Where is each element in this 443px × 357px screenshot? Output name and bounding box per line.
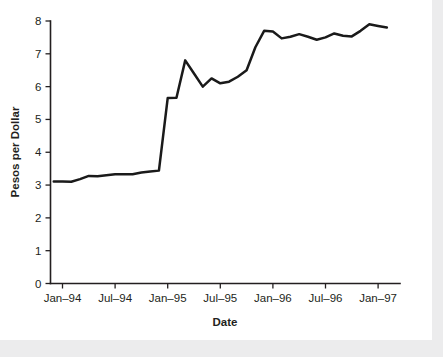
y-axis-title: Pesos per Dollar	[9, 106, 21, 197]
x-tick-label: Jan–95	[149, 292, 187, 304]
y-tick-label: 6	[35, 81, 41, 93]
y-tick-label: 1	[35, 245, 41, 257]
x-tick-label: Jan–94	[44, 292, 82, 304]
y-tick-label: 7	[35, 48, 41, 60]
x-tick-label: Jan–96	[254, 292, 292, 304]
y-axis-tick-labels: 012345678	[35, 15, 42, 290]
data-series-line	[54, 24, 387, 182]
x-tick-label: Jul–96	[309, 292, 343, 304]
exchange-rate-line-chart: 012345678 Jan–94Jul–94Jan–95Jul–95Jan–96…	[0, 0, 432, 340]
x-tick-label: Jul–95	[203, 292, 237, 304]
x-tick-label: Jul–94	[98, 292, 132, 304]
y-tick-label: 5	[35, 113, 41, 125]
x-axis-title: Date	[213, 316, 238, 328]
y-tick-label: 0	[35, 278, 41, 290]
y-tick-label: 3	[35, 179, 41, 191]
y-tick-label: 4	[35, 146, 42, 158]
chart-figure: 012345678 Jan–94Jul–94Jan–95Jul–95Jan–96…	[0, 0, 432, 340]
y-tick-label: 2	[35, 212, 41, 224]
x-tick-label: Jan–97	[359, 292, 397, 304]
x-axis-tick-labels: Jan–94Jul–94Jan–95Jul–95Jan–96Jul–96Jan–…	[44, 292, 397, 304]
y-tick-label: 8	[35, 15, 41, 27]
